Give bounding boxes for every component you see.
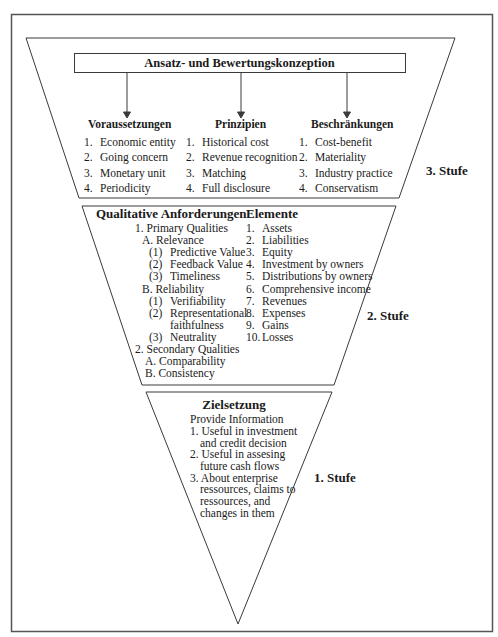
list-item: 4.Conservatism bbox=[299, 182, 378, 194]
qualitative-line: A. Comparability bbox=[145, 355, 226, 367]
goal-subheader: Provide Information bbox=[190, 413, 284, 425]
goal-line: future cash flows bbox=[200, 460, 279, 472]
stage-label-1: 1. Stufe bbox=[314, 472, 356, 484]
element-item: 8.Expenses bbox=[246, 307, 305, 319]
column-header-prinzipien: Prinzipien bbox=[215, 118, 266, 130]
qualitative-line: Timeliness bbox=[170, 270, 220, 282]
list-item: 4.Periodicity bbox=[84, 182, 150, 194]
qualitative-line: (2) bbox=[149, 258, 162, 270]
qualitative-line: (2) bbox=[149, 307, 162, 319]
qualitative-line: A. Relevance bbox=[142, 234, 204, 246]
elements-header: Elemente bbox=[246, 208, 298, 220]
list-item: 1.Economic entity bbox=[84, 136, 176, 148]
qualitative-line: (1) bbox=[149, 295, 162, 307]
list-item: 3.Industry practice bbox=[299, 167, 393, 179]
qualitative-line: (1) bbox=[149, 246, 162, 258]
element-item: 5.Distributions by owners bbox=[246, 270, 373, 282]
element-item: 3.Equity bbox=[246, 246, 293, 258]
column-header-beschraenkungen: Beschränkungen bbox=[311, 118, 393, 130]
list-item: 1.Cost-benefit bbox=[299, 136, 372, 148]
goal-line: 1. Useful in investment bbox=[190, 425, 297, 437]
stage-label-2: 2. Stufe bbox=[367, 310, 409, 322]
element-item: 4.Investment by owners bbox=[246, 258, 364, 270]
column-header-voraussetzungen: Voraussetzungen bbox=[88, 118, 171, 130]
list-item: 2.Revenue recognition bbox=[186, 151, 297, 163]
element-item: 2.Liabilities bbox=[246, 234, 309, 246]
qualitative-line: Neutrality bbox=[170, 331, 217, 343]
stage-label-3: 3. Stufe bbox=[426, 165, 468, 177]
qualitative-header: Qualitative Anforderungen bbox=[96, 208, 247, 220]
qualitative-line: faithfulness bbox=[170, 319, 224, 331]
qualitative-line: (3) bbox=[149, 331, 162, 343]
goal-line: ressources, and bbox=[200, 495, 270, 507]
list-item: 3.Matching bbox=[186, 167, 246, 179]
goal-line: ressources, claims to bbox=[200, 483, 296, 495]
concept-box-title: Ansatz- und Bewertungskonzeption bbox=[74, 57, 405, 69]
element-item: 9.Gains bbox=[246, 319, 289, 331]
arrows bbox=[124, 73, 351, 118]
element-item: 6.Comprehensive income bbox=[246, 283, 371, 295]
qualitative-line: 1. Primary Qualities bbox=[135, 222, 228, 234]
qualitative-line: Predictive Value bbox=[170, 246, 245, 258]
element-item: 1.Assets bbox=[246, 222, 292, 234]
list-item: 2.Materiality bbox=[299, 151, 366, 163]
qualitative-line: B. Consistency bbox=[145, 367, 215, 379]
qualitative-line: B. Reliability bbox=[142, 283, 204, 295]
qualitative-line: 2. Secondary Qualities bbox=[135, 343, 239, 355]
goal-line: 2. Useful in assesing bbox=[190, 448, 285, 460]
qualitative-line: (3) bbox=[149, 270, 162, 282]
list-item: 4.Full disclosure bbox=[186, 182, 270, 194]
list-item: 1.Historical cost bbox=[186, 136, 269, 148]
list-item: 3.Monetary unit bbox=[84, 167, 165, 179]
qualitative-line: Verifiability bbox=[170, 295, 226, 307]
element-item: 10.Losses bbox=[246, 331, 293, 343]
level2-trapezoid bbox=[82, 206, 396, 385]
list-item: 2.Going concern bbox=[84, 151, 168, 163]
element-item: 7.Revenues bbox=[246, 295, 307, 307]
qualitative-line: Feedback Value bbox=[170, 258, 243, 270]
goal-header: Zielsetzung bbox=[190, 399, 278, 411]
goal-line: changes in them bbox=[200, 507, 275, 519]
qualitative-line: Representational bbox=[170, 307, 247, 319]
